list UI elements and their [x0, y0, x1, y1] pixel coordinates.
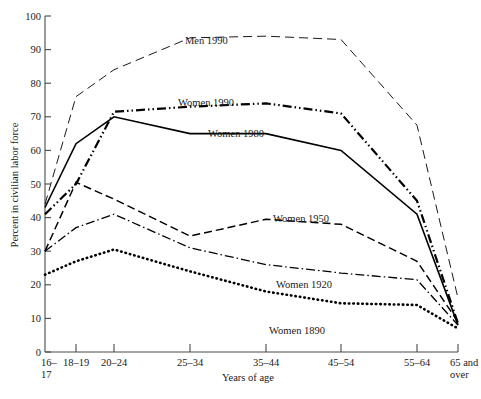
series-label-women-1990: Women 1990: [178, 97, 234, 108]
x-tick-label: 16–: [41, 357, 58, 368]
series-label-men-1990: Men 1990: [185, 35, 228, 46]
series-label-women-1920: Women 1920: [276, 279, 332, 290]
chart-background: [0, 0, 481, 399]
line-chart-canvas: 0102030405060708090100 16–1718–1920–2425…: [0, 0, 481, 399]
x-tick-label: 35–44: [253, 357, 280, 368]
y-tick-label: 80: [31, 78, 42, 89]
y-tick-label: 0: [36, 347, 41, 358]
x-tick-label: 45–54: [328, 357, 355, 368]
x-tick-label-line2: over: [450, 369, 469, 380]
y-axis-title: Percent in civilian labor force: [9, 122, 20, 247]
x-tick-label-line2: 17: [41, 369, 52, 380]
y-tick-label: 90: [31, 44, 42, 55]
series-label-women-1980: Women 1980: [208, 128, 264, 139]
y-tick-label: 10: [31, 313, 42, 324]
y-tick-label: 20: [31, 279, 42, 290]
x-tick-label: 55–64: [404, 357, 431, 368]
y-tick-label: 40: [31, 212, 42, 223]
chart-figure: 0102030405060708090100 16–1718–1920–2425…: [0, 0, 481, 399]
y-tick-label: 70: [31, 111, 42, 122]
y-tick-label: 50: [31, 179, 42, 190]
series-label-women-1890: Women 1890: [269, 325, 325, 336]
x-axis-title: Years of age: [222, 372, 274, 383]
y-tick-label: 30: [31, 246, 42, 257]
x-tick-label: 25–34: [177, 357, 204, 368]
y-tick-label: 100: [25, 11, 41, 22]
series-label-women-1950: Women 1950: [273, 213, 329, 224]
x-tick-label: 65 and: [450, 357, 479, 368]
x-tick-label: 20–24: [101, 357, 128, 368]
x-tick-label: 18–19: [63, 357, 89, 368]
y-tick-label: 60: [31, 145, 42, 156]
